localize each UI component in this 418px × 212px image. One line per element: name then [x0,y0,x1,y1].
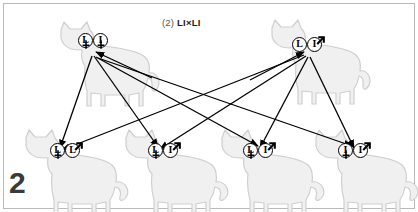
allele-letter: I [307,37,322,52]
allele-badge: L [243,143,258,158]
allele-letter: I [93,33,108,48]
arrow-to-father [250,52,304,80]
allele-letter: I [353,143,368,158]
allele-badge: I [353,143,368,158]
allele-letter: L [292,37,307,52]
allele-badge: I [163,143,178,158]
panel-number: 2 [9,168,26,198]
allele-letter: I [258,143,273,158]
arrow-father-to-offspring-1 [62,55,304,150]
genetics-cross-figure: (2) LI×LI 2 L I [0,0,418,212]
allele-badge: L [292,37,307,52]
allele-badge: I [307,37,322,52]
arrow-mother-to-offspring-1 [60,56,92,148]
allele-letter: L [148,143,163,158]
allele-letter: L [65,143,80,158]
allele-badge: L [50,143,65,158]
inheritance-arrow-layer [0,0,418,212]
allele-badge: I [338,143,353,158]
allele-letter: L [243,143,258,158]
allele-badge: L [78,33,93,48]
arrow-to-mother [96,52,152,78]
allele-badge: L [148,143,163,158]
genotype-offspring-1: L L [50,143,80,158]
genotype-parent-female: L I [78,33,108,48]
genotype-offspring-2: L I [148,143,178,158]
page-title: (2) LI×LI [162,17,201,28]
allele-letter: L [50,143,65,158]
genotype-parent-male: L I [292,37,322,52]
allele-letter: I [163,143,178,158]
title-cross: LI×LI [177,17,200,28]
genotype-offspring-4: I I [338,143,368,158]
title-prefix: (2) [162,17,174,28]
genotype-offspring-3: L I [243,143,273,158]
allele-badge: I [258,143,273,158]
allele-letter: I [338,143,353,158]
allele-badge: I [93,33,108,48]
allele-letter: L [78,33,93,48]
allele-badge: L [65,143,80,158]
